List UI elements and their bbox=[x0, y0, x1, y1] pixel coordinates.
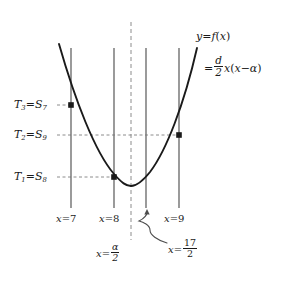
function-paren-close: ) bbox=[226, 30, 230, 43]
function-label-line1: y=f(x) bbox=[196, 31, 230, 42]
x8-equals: = bbox=[105, 213, 113, 224]
x9-value: 9 bbox=[178, 213, 184, 224]
function-term-paren-close: ) bbox=[257, 62, 261, 75]
axis-label-alpha-over-2: x=α2 bbox=[96, 242, 120, 264]
value-label-T1: T1=S8 bbox=[14, 171, 47, 184]
seventeen-numerator: 17 bbox=[183, 238, 197, 248]
x8-value: 8 bbox=[113, 213, 119, 224]
value-label-T3: T3=S7 bbox=[14, 99, 47, 112]
coefficient-denominator: 2 bbox=[214, 66, 223, 79]
S7-subscript: 7 bbox=[42, 104, 46, 112]
function-label-line2: =d2x(x−α) bbox=[204, 55, 262, 79]
annotation-curved-arrow bbox=[139, 212, 167, 243]
seventeen-denominator: 2 bbox=[183, 248, 197, 260]
value-label-T2: T2=S9 bbox=[14, 129, 47, 142]
x7-value: 7 bbox=[70, 213, 76, 224]
alpha-over-2-fraction: α2 bbox=[111, 242, 119, 264]
coefficient-numerator: d bbox=[214, 55, 223, 66]
axis-label-x7: x=7 bbox=[56, 214, 76, 224]
marker-point-T3 bbox=[68, 102, 74, 108]
T3-equals: = bbox=[26, 98, 35, 111]
parabola-figure: y=f(x) =d2x(x−α) T3=S7 T2=S9 T1=S8 x=7 x… bbox=[0, 0, 289, 283]
axis-label-x8: x=8 bbox=[99, 214, 119, 224]
coefficient-fraction: d2 bbox=[214, 55, 223, 79]
axis-label-seventeen-over-2: x=172 bbox=[168, 238, 198, 260]
axis-label-x9: x=9 bbox=[164, 214, 184, 224]
alpha-denominator: 2 bbox=[111, 252, 119, 264]
function-term-minus: − bbox=[241, 62, 250, 75]
S8-subscript: 8 bbox=[42, 176, 46, 184]
alpha-numerator: α bbox=[111, 242, 119, 252]
x9-equals: = bbox=[170, 213, 178, 224]
annotation-arrow-head bbox=[144, 209, 149, 215]
T2-equals: = bbox=[26, 128, 35, 141]
marker-point-T2 bbox=[176, 132, 182, 138]
seventeen-label-equals: = bbox=[174, 244, 182, 255]
T1-equals: = bbox=[26, 170, 35, 183]
marker-point-T1 bbox=[111, 174, 117, 180]
seventeen-over-2-fraction: 172 bbox=[183, 238, 197, 260]
x7-equals: = bbox=[62, 213, 70, 224]
S9-subscript: 9 bbox=[42, 134, 46, 142]
parabola-curve bbox=[59, 44, 197, 186]
alpha-label-equals: = bbox=[102, 248, 110, 259]
function-equals-2: = bbox=[204, 62, 213, 75]
